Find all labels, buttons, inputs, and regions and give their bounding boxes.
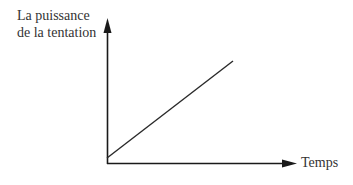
y-axis-arrow-icon	[104, 18, 112, 33]
temptation-line	[107, 61, 233, 158]
x-axis-label: Temps	[301, 155, 338, 171]
x-axis-arrow-icon	[282, 160, 297, 168]
